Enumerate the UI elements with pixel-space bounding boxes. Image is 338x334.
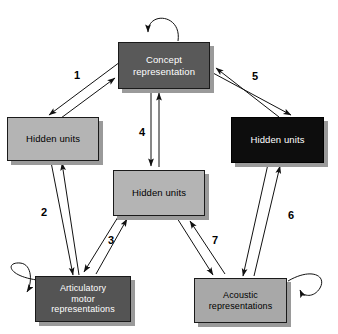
arrow-center-to-acoustic [177,218,213,275]
edge-label-3: 3 [108,235,114,246]
arrow-concept-to-hidden-left [49,62,120,115]
edge-label-2: 2 [41,207,47,218]
self-loop-acoustic [288,274,322,295]
arrow-acoustic-to-hidden-right [254,166,280,276]
edge-label-5: 5 [252,71,258,82]
diagram-canvas: Concept representation Hidden units Hidd… [0,0,338,334]
edge-label-1: 1 [74,70,80,81]
edge-label-6: 6 [288,210,294,221]
node-hidden-units-center-label: Hidden units [130,187,188,198]
node-hidden-units-center[interactable]: Hidden units [113,170,205,216]
arrow-hidden-right-to-concept [216,68,279,117]
node-acoustic-representations-label: Acoustic representations [207,290,275,311]
node-hidden-units-right-label: Hidden units [248,134,306,145]
edge-label-4: 4 [139,127,145,138]
node-articulatory-motor-representations[interactable]: Articulatory motor representations [35,276,131,322]
self-loop-articulatory [11,263,37,292]
node-hidden-units-left-label: Hidden units [24,133,82,144]
arrow-hidden-left-to-concept [61,78,115,118]
self-loop-concept [148,18,178,41]
arrow-hidden-right-to-acoustic [243,164,268,276]
node-hidden-units-right[interactable]: Hidden units [231,117,324,163]
node-concept-representation[interactable]: Concept representation [118,42,210,89]
arrow-articulatory-to-hidden-left [62,163,79,275]
node-hidden-units-left[interactable]: Hidden units [7,117,99,161]
node-articulatory-motor-representations-label: Articulatory motor representations [49,283,117,315]
edge-label-7: 7 [212,235,218,246]
node-acoustic-representations[interactable]: Acoustic representations [194,278,287,323]
arrow-hidden-left-to-articulatory [51,162,73,275]
node-concept-representation-label: Concept representation [131,54,197,76]
